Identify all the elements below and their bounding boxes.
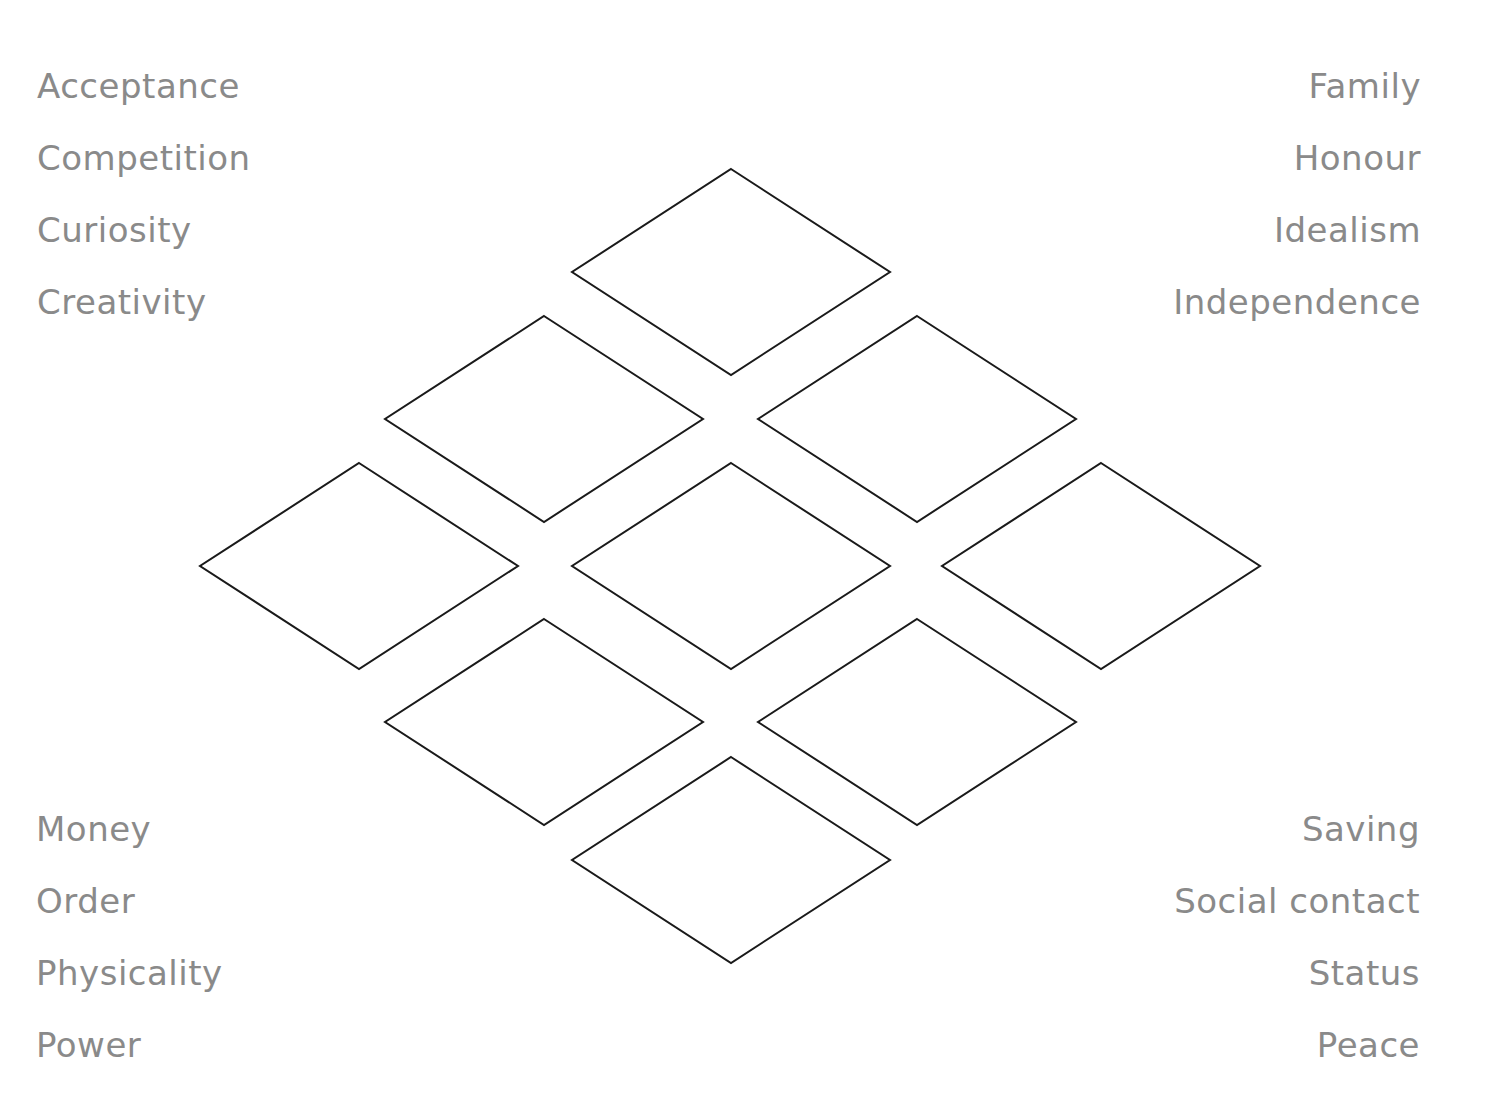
diamond-slot-3: [758, 316, 1076, 522]
diamond-slot-6: [942, 463, 1260, 669]
diamond-ranking-grid: [0, 0, 1497, 1112]
diamond-slot-8: [758, 619, 1076, 825]
diamond-slot-1: [572, 169, 890, 375]
diamond-slot-2: [385, 316, 703, 522]
diamond-slot-9: [572, 757, 890, 963]
diamond-slot-4: [200, 463, 518, 669]
diamond-slot-5: [572, 463, 890, 669]
diamond-slot-7: [385, 619, 703, 825]
